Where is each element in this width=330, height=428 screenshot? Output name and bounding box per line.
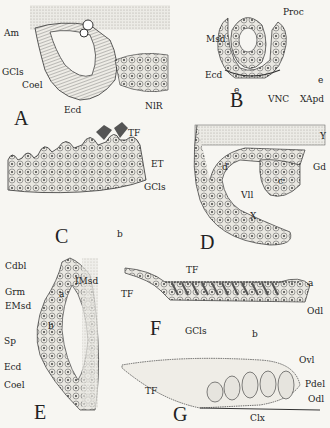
label-clx: Clx xyxy=(250,414,265,423)
label-a: a xyxy=(59,290,64,299)
label-grm: Grm xyxy=(5,288,25,297)
panel-g-drawing xyxy=(122,358,320,410)
label-imsd: IMsd xyxy=(75,277,98,286)
panel-letter-e: E xyxy=(34,402,46,422)
label-ecd: Ecd xyxy=(64,106,81,115)
panel-letter-g: G xyxy=(173,404,187,424)
figure-illustrations xyxy=(0,0,330,428)
label-b: b xyxy=(48,322,54,331)
panel-letter-b: B xyxy=(230,90,243,110)
panel-f-drawing xyxy=(125,268,310,302)
label-gcls: GCls xyxy=(2,68,24,77)
label-cdbl: Cdbl xyxy=(5,262,26,271)
label-emsd: EMsd xyxy=(5,302,31,311)
label-y: Y xyxy=(320,132,326,141)
label-b: b xyxy=(252,330,258,339)
panel-letter-f: F xyxy=(150,318,161,338)
label-pdel: Pdel xyxy=(305,380,325,389)
label-msd: Msd xyxy=(206,35,226,44)
label-tf-top: TF xyxy=(186,266,198,275)
label-tf: TF xyxy=(145,387,157,396)
panel-letter-d: D xyxy=(200,232,214,252)
label-tf-left: TF xyxy=(121,290,133,299)
label-x: X xyxy=(250,212,256,221)
panel-a-drawing xyxy=(30,5,170,100)
label-vnc: VNC xyxy=(268,95,289,104)
panel-c-drawing xyxy=(8,122,146,193)
label-tf: TF xyxy=(128,129,140,138)
label-am: Am xyxy=(4,29,19,38)
label-vll: Vll xyxy=(241,191,253,200)
label-coel: Coel xyxy=(4,381,25,390)
label-ecd: Ecd xyxy=(4,363,21,372)
label-nlr: NlR xyxy=(145,102,163,111)
label-xapd: XApd xyxy=(300,95,324,104)
label-gcls: GCls xyxy=(144,183,166,192)
label-ecd: Ecd xyxy=(205,71,222,80)
label-coel: Coel xyxy=(22,81,43,90)
label-odl: Odl xyxy=(308,395,324,404)
label-gd: Gd xyxy=(313,163,326,172)
label-e-right: e xyxy=(318,76,323,85)
label-odl: Odl xyxy=(307,307,323,316)
label-a: a xyxy=(308,279,313,288)
panel-letter-a: A xyxy=(14,108,28,128)
panel-letter-c: C xyxy=(55,226,68,246)
label-et: ET xyxy=(151,160,164,169)
label-gcls: GCls xyxy=(185,327,207,336)
label-b: b xyxy=(117,230,123,239)
label-proc: Proc xyxy=(283,8,304,17)
label-ovl: Ovl xyxy=(299,356,314,365)
label-d: d xyxy=(222,163,228,172)
label-c: c xyxy=(278,177,283,186)
panel-d-drawing xyxy=(194,125,325,245)
label-sp: Sp xyxy=(4,337,16,346)
panel-b-drawing xyxy=(218,18,287,78)
